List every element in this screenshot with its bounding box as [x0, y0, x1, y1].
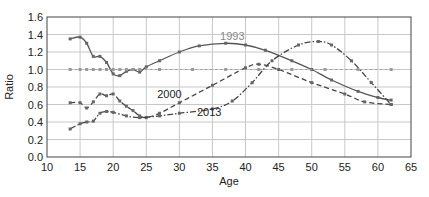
data-marker: [69, 101, 72, 104]
data-marker: [211, 84, 214, 87]
data-marker: [244, 44, 247, 47]
data-marker: [231, 100, 234, 103]
data-marker: [85, 42, 88, 45]
data-marker: [271, 59, 274, 62]
data-marker: [85, 121, 88, 124]
data-marker: [390, 99, 393, 102]
data-marker: [224, 68, 227, 71]
data-marker: [251, 81, 254, 84]
data-marker: [138, 71, 141, 74]
data-marker: [290, 59, 293, 62]
data-marker: [132, 109, 135, 112]
data-marker: [105, 94, 108, 97]
data-marker: [118, 74, 121, 77]
y-tick-label: 1.2: [28, 46, 43, 58]
data-marker: [357, 90, 360, 93]
series-2000: [69, 63, 393, 119]
data-marker: [198, 44, 201, 47]
data-marker: [92, 55, 95, 58]
data-marker: [105, 110, 108, 113]
x-tick-label: 55: [339, 161, 351, 173]
series-1993: [69, 36, 393, 102]
data-marker: [132, 68, 135, 71]
x-tick-label: 25: [140, 161, 152, 173]
data-marker: [317, 40, 320, 43]
x-tick-label: 30: [173, 161, 185, 173]
y-tick-label: 0.4: [28, 116, 43, 128]
series-layer: [69, 36, 393, 131]
data-marker: [98, 55, 101, 58]
x-tick-label: 40: [239, 161, 251, 173]
data-marker: [98, 93, 101, 96]
data-marker: [330, 79, 333, 82]
data-marker: [310, 81, 313, 84]
y-tick-label: 1.0: [28, 64, 43, 76]
y-axis-label: Ratio: [3, 74, 15, 100]
data-marker: [370, 81, 373, 84]
x-tick-label: 20: [107, 161, 119, 173]
data-marker: [112, 111, 115, 114]
data-marker: [350, 59, 353, 62]
data-marker: [79, 101, 82, 104]
data-marker: [343, 93, 346, 96]
data-marker: [297, 44, 300, 47]
data-marker: [330, 44, 333, 47]
y-tick-label: 1.4: [28, 29, 43, 41]
data-marker: [158, 68, 161, 71]
series-label-2013: 2013: [197, 106, 221, 118]
data-marker: [376, 96, 379, 99]
data-marker: [158, 59, 161, 62]
y-tick-label: 0.0: [28, 151, 43, 163]
data-marker: [178, 101, 181, 104]
data-marker: [357, 68, 360, 71]
data-marker: [191, 68, 194, 71]
line-chart: 1015202530354045505560650.00.20.40.60.81…: [0, 0, 429, 197]
x-tick-label: 45: [273, 161, 285, 173]
data-marker: [390, 103, 393, 106]
data-marker: [257, 68, 260, 71]
data-marker: [92, 68, 95, 71]
data-marker: [69, 37, 72, 40]
data-marker: [138, 68, 141, 71]
data-marker: [85, 107, 88, 110]
data-marker: [158, 114, 161, 117]
data-marker: [244, 66, 247, 69]
data-marker: [158, 112, 161, 115]
x-tick-label: 65: [405, 161, 417, 173]
data-marker: [264, 49, 267, 52]
data-marker: [257, 63, 260, 66]
data-marker: [125, 114, 128, 117]
data-marker: [69, 128, 72, 131]
data-marker: [138, 116, 141, 119]
data-marker: [290, 68, 293, 71]
x-tick-label: 35: [206, 161, 218, 173]
data-marker: [118, 100, 121, 103]
data-marker: [112, 93, 115, 96]
data-marker: [85, 68, 88, 71]
y-tick-label: 0.6: [28, 99, 43, 111]
data-marker: [92, 120, 95, 123]
data-marker: [125, 68, 128, 71]
x-tick-label: 60: [372, 161, 384, 173]
data-marker: [105, 68, 108, 71]
x-tick-label: 50: [306, 161, 318, 173]
data-marker: [277, 68, 280, 71]
data-marker: [105, 61, 108, 64]
y-tick-label: 0.2: [28, 134, 43, 146]
data-marker: [145, 65, 148, 68]
y-tick-label: 0.8: [28, 81, 43, 93]
x-axis-label: Age: [219, 175, 239, 187]
data-marker: [323, 68, 326, 71]
x-tick-label: 15: [74, 161, 86, 173]
data-marker: [92, 100, 95, 103]
data-marker: [125, 105, 128, 108]
data-marker: [112, 68, 115, 71]
y-tick-label: 1.6: [28, 11, 43, 23]
series-line: [70, 64, 391, 118]
data-marker: [390, 68, 393, 71]
data-marker: [69, 68, 72, 71]
data-marker: [178, 112, 181, 115]
data-marker: [363, 100, 366, 103]
data-marker: [98, 112, 101, 115]
data-marker: [118, 68, 121, 71]
